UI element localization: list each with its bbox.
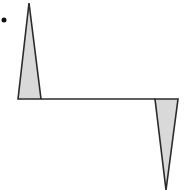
negative-spike [155, 99, 178, 190]
positive-spike [18, 3, 41, 99]
bullet-dot [2, 18, 7, 23]
waveform-diagram [0, 0, 192, 190]
